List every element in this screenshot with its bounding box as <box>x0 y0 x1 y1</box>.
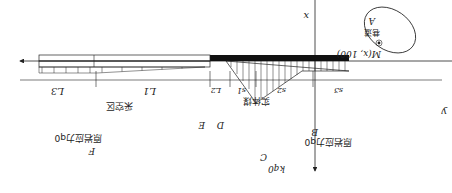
label-s1: s1 <box>237 86 246 95</box>
point-C: C <box>260 152 267 162</box>
point-E: E <box>198 120 206 130</box>
solid-coal-label: 实体煤 <box>243 96 270 107</box>
roadway-id: A <box>368 16 376 26</box>
label-s2: s2 <box>277 86 286 95</box>
dimension-line <box>20 71 442 87</box>
roadway-point-label: M(x, 100) <box>336 49 382 59</box>
axis-label-x: x <box>303 11 309 22</box>
point-B: B <box>311 127 319 137</box>
label-L1: L1 <box>143 86 157 97</box>
mining-stress-diagram: L3 L1 L2 s1 s2 s3 x y M(x, 100) 巷道 A 采空区… <box>0 0 452 193</box>
label-L3: L3 <box>51 86 65 97</box>
point-D: D <box>217 120 225 130</box>
goaf-bar <box>39 55 210 61</box>
label-L2: L2 <box>211 86 222 95</box>
label-s3: s3 <box>334 86 343 95</box>
peak-load-label: kq0 <box>268 164 285 174</box>
solid-coal-bar <box>210 55 349 61</box>
goaf-label: 采空区 <box>106 101 133 112</box>
point-F: F <box>88 146 96 156</box>
axis-label-y: y <box>441 107 448 118</box>
right-load-label: 原岩应力q0 <box>304 137 352 148</box>
roadway-name: 巷道 <box>364 28 380 38</box>
left-load-label: 原岩应力q0 <box>54 133 102 144</box>
